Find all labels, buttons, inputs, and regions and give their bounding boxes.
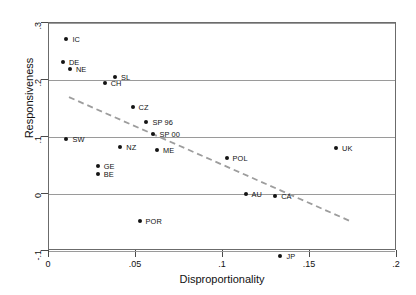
data-point-label: CA — [281, 193, 291, 200]
gridline — [49, 194, 395, 195]
data-point — [96, 172, 100, 176]
x-tick-label: .2 — [392, 259, 400, 269]
data-point — [68, 67, 72, 71]
data-point-label: POL — [233, 155, 248, 162]
data-point-label: SW — [72, 136, 84, 143]
data-point-label: SP 96 — [152, 119, 173, 126]
gridline — [49, 137, 395, 138]
x-tick — [396, 250, 397, 257]
data-point — [334, 146, 338, 150]
plot-area: ICDENESLCHCZSP 96SP 00SWNZMEGEBEPOLUKAUC… — [48, 22, 396, 250]
y-tick-label: .1 — [33, 136, 43, 144]
data-point-label: CH — [111, 80, 122, 87]
y-axis-title: Responsiveness — [23, 18, 35, 178]
gridline — [49, 23, 395, 24]
data-point — [151, 132, 155, 136]
data-point — [278, 254, 282, 258]
data-point — [103, 81, 107, 85]
gridline — [49, 251, 395, 252]
data-point-label: IC — [72, 36, 80, 43]
x-axis-title: Disproportionality — [48, 273, 396, 285]
y-tick-label: -.1 — [33, 250, 43, 261]
data-point — [244, 192, 248, 196]
data-point — [118, 145, 122, 149]
x-tick-label: 0 — [45, 259, 50, 269]
x-tick-label: .1 — [218, 259, 226, 269]
x-tick-label: .05 — [129, 259, 142, 269]
data-point-label: UK — [342, 145, 352, 152]
data-point-label: NE — [76, 66, 86, 73]
data-point — [225, 156, 229, 160]
y-tick-label: 0 — [33, 193, 43, 198]
data-point — [113, 75, 117, 79]
data-point — [96, 164, 100, 168]
gridline — [49, 80, 395, 81]
data-point — [61, 60, 65, 64]
data-point — [138, 219, 142, 223]
data-point — [131, 105, 135, 109]
chart-figure: Responsiveness Disproportionality .3.2.1… — [0, 0, 416, 295]
data-point-label: POR — [146, 218, 162, 225]
data-point-label: AU — [252, 191, 262, 198]
data-point — [64, 37, 68, 41]
data-point — [273, 194, 277, 198]
data-point-label: JP — [286, 253, 295, 260]
data-point-label: CZ — [139, 104, 149, 111]
y-tick-label: .3 — [33, 22, 43, 30]
data-point-label: SL — [121, 74, 130, 81]
data-point-label: BE — [104, 171, 114, 178]
data-point-label: SP 00 — [159, 131, 180, 138]
data-point-label: NZ — [126, 144, 136, 151]
x-tick-label: .15 — [303, 259, 316, 269]
data-point-label: ME — [163, 147, 174, 154]
data-point — [155, 148, 159, 152]
data-point — [144, 120, 148, 124]
data-point — [64, 137, 68, 141]
y-tick-label: .2 — [33, 79, 43, 87]
clipped-header-text — [0, 0, 416, 8]
